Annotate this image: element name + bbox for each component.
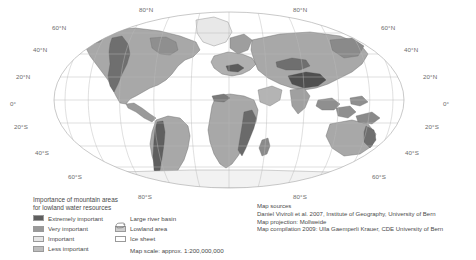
graticule-label-bottom-80s-east: 80°S — [293, 193, 307, 200]
legend-item-extremely-important: Extremely important — [33, 214, 103, 223]
map-legend: Importance of mountain areas for lowland… — [33, 196, 263, 254]
graticule-label-left-40n: 40°N — [33, 46, 47, 53]
legend-label-ice-sheet: Ice sheet — [130, 235, 155, 242]
legend-title-line1: Importance of mountain areas — [33, 196, 263, 204]
graticule-label-right-20n: 20°N — [423, 73, 437, 80]
legend-symbol-classes: Large river basin Lowland area Ice sheet… — [115, 214, 224, 255]
graticule-label-left-20s: 20°S — [14, 123, 28, 130]
legend-item-important: Important — [33, 234, 103, 243]
graticule-label-top-80n-east: 80°N — [293, 6, 307, 13]
legend-item-large-river-basin: Large river basin — [115, 214, 224, 223]
sources-line-compilation: Map compilation 2009: Ulla Gaemperli Kra… — [257, 226, 443, 234]
world-map: 60°N 40°N 20°N 0° 20°S 40°S 60°S 60°N 40… — [0, 0, 476, 200]
graticule-label-left-60s: 60°S — [68, 173, 82, 180]
map-scale-text: Map scale: approx. 1:200,000,000 — [115, 247, 224, 254]
swatch-extremely-important — [33, 215, 44, 221]
legend-item-less-important: Less important — [33, 244, 103, 253]
legend-title-line2: for lowland water resources — [33, 204, 263, 212]
graticule-label-right-0: 0° — [443, 100, 449, 107]
graticule-label-right-60s: 60°S — [372, 173, 386, 180]
river-basin-outline-icon — [115, 215, 126, 222]
swatch-very-important — [33, 226, 44, 232]
graticule-label-top-80n-west: 80°N — [139, 6, 153, 13]
swatch-important — [33, 236, 44, 242]
ice-sheet-outline-icon — [115, 236, 126, 242]
legend-label-important: Important — [48, 235, 74, 242]
legend-importance-classes: Extremely important Very important Impor… — [33, 214, 103, 255]
graticule-label-left-20n: 20°N — [16, 73, 30, 80]
legend-item-lowland-area: Lowland area — [115, 224, 224, 233]
graticule-label-right-60n: 60°N — [381, 24, 395, 31]
graticule-label-left-60n: 60°N — [52, 24, 66, 31]
map-sources-block: Map sources Daniel Viviroli et al. 2007,… — [257, 203, 443, 234]
legend-label-less-important: Less important — [48, 245, 89, 252]
mollweide-map-svg — [0, 0, 476, 200]
legend-item-ice-sheet: Ice sheet — [115, 234, 224, 243]
legend-title: Importance of mountain areas for lowland… — [33, 196, 263, 212]
sources-line-authors: Daniel Viviroli et al. 2007, Institute o… — [257, 211, 443, 219]
graticule-label-left-0: 0° — [10, 100, 16, 107]
legend-item-very-important: Very important — [33, 224, 103, 233]
graticule-label-right-20s: 20°S — [425, 123, 439, 130]
legend-label-large-river-basin: Large river basin — [130, 215, 176, 222]
graticule-label-right-40s: 40°S — [405, 149, 419, 156]
graticule-label-right-40n: 40°N — [404, 46, 418, 53]
sources-heading: Map sources — [257, 203, 443, 211]
legend-label-lowland-area: Lowland area — [130, 225, 167, 232]
sources-line-projection: Map projection: Mollweide — [257, 219, 443, 227]
legend-label-extremely-important: Extremely important — [48, 215, 103, 222]
legend-label-very-important: Very important — [48, 225, 88, 232]
map-figure: 60°N 40°N 20°N 0° 20°S 40°S 60°S 60°N 40… — [0, 0, 476, 260]
graticule-label-left-40s: 40°S — [35, 149, 49, 156]
swatch-less-important — [33, 246, 44, 252]
